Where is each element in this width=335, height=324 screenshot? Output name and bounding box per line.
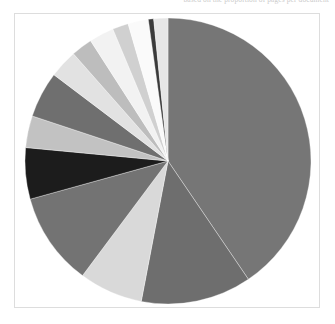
pie-chart: Segment 1: 40.5Segment 2: 12.5Segment 3:…	[15, 14, 319, 307]
pie-chart-svg: Segment 1: 40.5Segment 2: 12.5Segment 3:…	[15, 14, 319, 307]
clipped-header-text: based on the proportion of pages per doc…	[0, 0, 335, 5]
figure-frame: Segment 1: 40.5Segment 2: 12.5Segment 3:…	[14, 13, 320, 308]
